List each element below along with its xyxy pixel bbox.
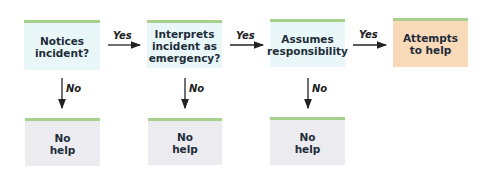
step-label: Attempts to help bbox=[403, 32, 458, 56]
no-help-label: No help bbox=[172, 131, 198, 155]
no-help-label: No help bbox=[50, 132, 76, 156]
no-label-2: No bbox=[189, 83, 204, 94]
yes-label-3: Yes bbox=[359, 29, 378, 40]
step-label: Assumes responsibility bbox=[267, 33, 348, 57]
no-help-box-2: No help bbox=[148, 118, 222, 165]
step-assumes-responsibility: Assumes responsibility bbox=[270, 19, 345, 67]
yes-label-1: Yes bbox=[113, 30, 132, 41]
yes-label-2: Yes bbox=[236, 30, 255, 41]
step-label: Interprets incident as emergency? bbox=[149, 28, 221, 64]
step-attempts-to-help: Attempts to help bbox=[393, 18, 468, 67]
no-help-box-1: No help bbox=[25, 118, 100, 166]
no-label-3: No bbox=[312, 83, 327, 94]
step-interprets-emergency: Interprets incident as emergency? bbox=[147, 20, 222, 68]
step-notices-incident: Notices incident? bbox=[24, 20, 100, 70]
step-label: Notices incident? bbox=[35, 35, 89, 59]
no-help-box-3: No help bbox=[270, 117, 345, 165]
no-label-1: No bbox=[66, 83, 81, 94]
no-help-label: No help bbox=[295, 131, 321, 155]
